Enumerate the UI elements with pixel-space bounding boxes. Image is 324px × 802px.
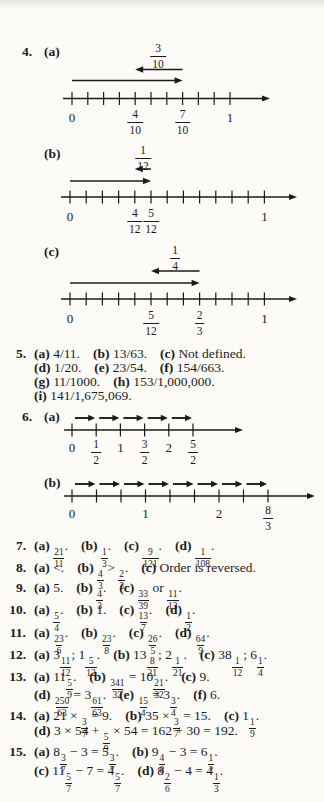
answer-text: .: [121, 763, 124, 778]
fraction-denominator: 6: [164, 783, 171, 795]
whole-number: 2: [165, 647, 172, 662]
fraction: 83: [263, 505, 273, 532]
item-label: (i): [34, 388, 47, 403]
item-label: (d): [175, 538, 192, 553]
fraction: 52: [188, 439, 198, 466]
answer-text: .: [73, 669, 76, 684]
answer-text: .: [108, 538, 111, 553]
fraction-denominator: 3: [263, 518, 273, 532]
tick-label: 412: [127, 206, 143, 235]
answer-text: .: [256, 708, 259, 723]
answer-text: .: [65, 625, 68, 640]
fraction: 13: [213, 773, 220, 795]
fraction-numerator: 5: [146, 208, 156, 221]
fraction-denominator: 12: [143, 221, 159, 235]
tick-label: 1: [142, 503, 149, 520]
answer-text: .: [116, 744, 119, 759]
tick-label: 12: [91, 437, 101, 466]
fraction-numerator: 3: [140, 439, 150, 452]
item-label: (b): [113, 647, 130, 662]
fraction-numerator: 3: [170, 697, 177, 708]
answer-text: .: [211, 538, 214, 553]
fraction-numerator: 2: [195, 310, 205, 323]
item-label: (b): [89, 669, 106, 684]
mixed-number: 837: [53, 744, 67, 759]
answer-text: = 15.: [180, 708, 211, 723]
fraction-numerator: 4: [130, 208, 140, 221]
scan-artifact: [0, 0, 324, 9]
answer-text: .: [192, 602, 195, 617]
fraction-denominator: 7: [65, 783, 72, 795]
item-label: (c): [224, 708, 239, 723]
mixed-number: 38112: [218, 647, 243, 662]
mixed-number: 31112: [53, 647, 71, 662]
fraction-numerator: 5: [53, 612, 60, 623]
mixed-number: 826: [157, 763, 171, 778]
item-label: (b): [76, 602, 93, 617]
item-label: (a): [34, 625, 50, 640]
whole-number: 11: [52, 763, 65, 778]
fraction-numerator: 1: [101, 548, 108, 559]
answer-text: ;: [71, 647, 78, 662]
answer-text: =: [149, 687, 163, 702]
item-label: (c): [181, 669, 196, 684]
fraction-denominator: 3: [195, 323, 205, 337]
number-line-figure-4a: 4.(a)31004107101: [0, 36, 324, 138]
tick-label: 0: [69, 437, 76, 454]
answer-text: 21 ×: [50, 708, 81, 723]
fraction-numerator: 4: [130, 109, 140, 122]
item-label: (c): [141, 560, 156, 575]
fraction-numerator: 33: [138, 590, 150, 601]
fraction-denominator: 2: [91, 452, 101, 466]
tick-label: 512: [143, 308, 159, 337]
number-line-graphic: [0, 36, 324, 138]
whole-number: 3: [163, 687, 170, 702]
item-label: (a): [34, 602, 50, 617]
item-label: (c): [129, 625, 144, 640]
answer-text: =: [125, 669, 139, 684]
answer-text: 141/1,675,069.: [47, 388, 132, 403]
item-label: (a): [34, 744, 50, 759]
whole-number: 13: [133, 647, 147, 662]
fraction-numerator: 5: [103, 733, 110, 744]
item-label: (a): [34, 538, 50, 553]
fraction-numerator: 250: [54, 697, 70, 708]
item-label: (d): [165, 602, 182, 617]
answer-text: or: [149, 580, 167, 595]
answer-text: × 54 = 162 + 30 = 192.: [110, 723, 238, 738]
whole-number: 38: [218, 647, 232, 662]
answer-text: − 3 =: [165, 744, 200, 759]
whole-number: 3: [53, 647, 60, 662]
answer-line: (i) 141/1,675,069.: [0, 387, 324, 404]
answer-text: >: [104, 560, 118, 575]
whole-number: 1: [242, 708, 249, 723]
item-label: (c): [200, 647, 215, 662]
mixed-number: 2121: [165, 647, 183, 662]
problem-number: 12.: [0, 646, 26, 663]
fraction-numerator: 8: [149, 657, 156, 668]
item-label: (e): [119, 687, 134, 702]
mixed-number: 1159: [53, 669, 73, 684]
answer-text: .: [264, 647, 267, 662]
item-label: (b): [125, 708, 142, 723]
tick-label: 1: [227, 107, 234, 124]
whole-number: 1: [79, 647, 86, 662]
item-label: (b): [77, 560, 94, 575]
answer-text: =: [70, 687, 84, 702]
tick-label: 52: [188, 437, 198, 466]
answer-text: .: [165, 669, 168, 684]
answer-text: .: [183, 647, 186, 662]
answer-content: (i) 141/1,675,069.: [34, 387, 132, 404]
fraction: 512: [143, 208, 159, 235]
fraction-denominator: 2: [188, 452, 198, 466]
fraction-numerator: 13: [138, 612, 150, 623]
fraction-numerator: 26: [147, 635, 159, 646]
answer-text: .: [65, 538, 68, 553]
fraction-numerator: 1: [257, 657, 264, 668]
tick-label: 0: [69, 107, 76, 124]
fraction-denominator: 10: [127, 122, 143, 136]
answer-text: .: [159, 625, 162, 640]
item-label: (b): [76, 580, 93, 595]
fraction-numerator: 1: [174, 657, 181, 668]
answer-text: 35 ×: [142, 708, 173, 723]
